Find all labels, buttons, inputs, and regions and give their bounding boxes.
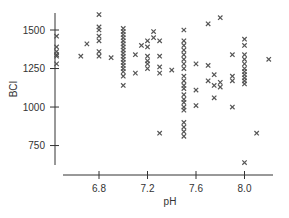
data-point-x-marker (206, 22, 210, 26)
data-point-x-marker (212, 83, 216, 87)
data-point-x-marker (79, 54, 83, 58)
data-point-x-marker (121, 69, 125, 73)
data-point-x-marker (230, 52, 234, 56)
data-point-x-marker (97, 39, 101, 43)
data-point-x-marker (97, 12, 101, 16)
data-point-x-marker (242, 160, 246, 164)
data-point-x-marker (97, 49, 101, 53)
data-point-x-marker (194, 62, 198, 66)
y-tick-label: 1250 (23, 63, 46, 74)
data-point-x-marker (121, 83, 125, 87)
data-point-x-marker (230, 79, 234, 83)
y-tick-label: 1500 (23, 25, 46, 36)
data-point-x-marker (145, 62, 149, 66)
data-point-x-marker (182, 52, 186, 56)
data-point-x-marker (182, 93, 186, 97)
x-tick-label: 6.8 (92, 183, 106, 194)
data-point-x-marker (139, 43, 143, 47)
data-point-x-marker (157, 131, 161, 135)
data-point-x-marker (182, 129, 186, 133)
data-point-x-marker (109, 56, 113, 60)
y-axis: 750100012501500 BCI (8, 13, 59, 165)
data-point-x-marker (206, 63, 210, 67)
scatter-chart: 750100012501500 BCI 6.87.27.68.0 pH (0, 0, 289, 218)
y-tick-label: 750 (28, 140, 45, 151)
data-point-x-marker (230, 105, 234, 109)
data-point-x-marker (182, 125, 186, 129)
data-point-x-marker (133, 52, 137, 56)
data-point-x-marker (182, 134, 186, 138)
x-axis-label: pH (164, 196, 177, 207)
data-point-x-marker (242, 82, 246, 86)
data-point-x-marker (182, 48, 186, 52)
data-point-x-marker (97, 34, 101, 38)
data-point-x-marker (170, 68, 174, 72)
data-point-x-marker (254, 131, 258, 135)
data-point-x-marker (242, 52, 246, 56)
data-points (54, 12, 271, 164)
data-point-x-marker (151, 29, 155, 33)
data-point-x-marker (218, 80, 222, 84)
data-point-x-marker (182, 79, 186, 83)
data-point-x-marker (157, 65, 161, 69)
data-point-x-marker (182, 108, 186, 112)
y-axis-label: BCI (8, 81, 19, 98)
data-point-x-marker (218, 85, 222, 89)
data-point-x-marker (145, 54, 149, 58)
data-point-x-marker (157, 71, 161, 75)
data-point-x-marker (182, 120, 186, 124)
data-point-x-marker (230, 74, 234, 78)
x-tick-label: 8.0 (238, 183, 252, 194)
data-point-x-marker (97, 54, 101, 58)
data-point-x-marker (151, 36, 155, 40)
data-point-x-marker (182, 39, 186, 43)
data-point-x-marker (121, 74, 125, 78)
data-point-x-marker (212, 72, 216, 76)
data-point-x-marker (97, 28, 101, 32)
data-point-x-marker (182, 62, 186, 66)
data-point-x-marker (242, 62, 246, 66)
data-point-x-marker (182, 57, 186, 61)
data-point-x-marker (206, 79, 210, 83)
data-point-x-marker (145, 66, 149, 70)
data-point-x-marker (145, 45, 149, 49)
data-point-x-marker (182, 66, 186, 70)
x-axis: 6.87.27.68.0 pH (63, 171, 273, 207)
x-tick-label: 7.2 (141, 183, 155, 194)
data-point-x-marker (242, 43, 246, 47)
data-point-x-marker (242, 57, 246, 61)
data-point-x-marker (182, 86, 186, 90)
data-point-x-marker (182, 74, 186, 78)
data-point-x-marker (218, 15, 222, 19)
data-point-x-marker (182, 100, 186, 104)
data-point-x-marker (242, 37, 246, 41)
data-point-x-marker (133, 71, 137, 75)
y-tick-label: 1000 (23, 102, 46, 113)
data-point-x-marker (194, 88, 198, 92)
data-point-x-marker (194, 103, 198, 107)
data-point-x-marker (182, 43, 186, 47)
data-point-x-marker (182, 28, 186, 32)
data-point-x-marker (145, 39, 149, 43)
data-point-x-marker (85, 42, 89, 46)
data-point-x-marker (157, 39, 161, 43)
data-point-x-marker (267, 57, 271, 61)
data-point-x-marker (212, 96, 216, 100)
x-tick-label: 7.6 (189, 183, 203, 194)
data-point-x-marker (157, 54, 161, 58)
